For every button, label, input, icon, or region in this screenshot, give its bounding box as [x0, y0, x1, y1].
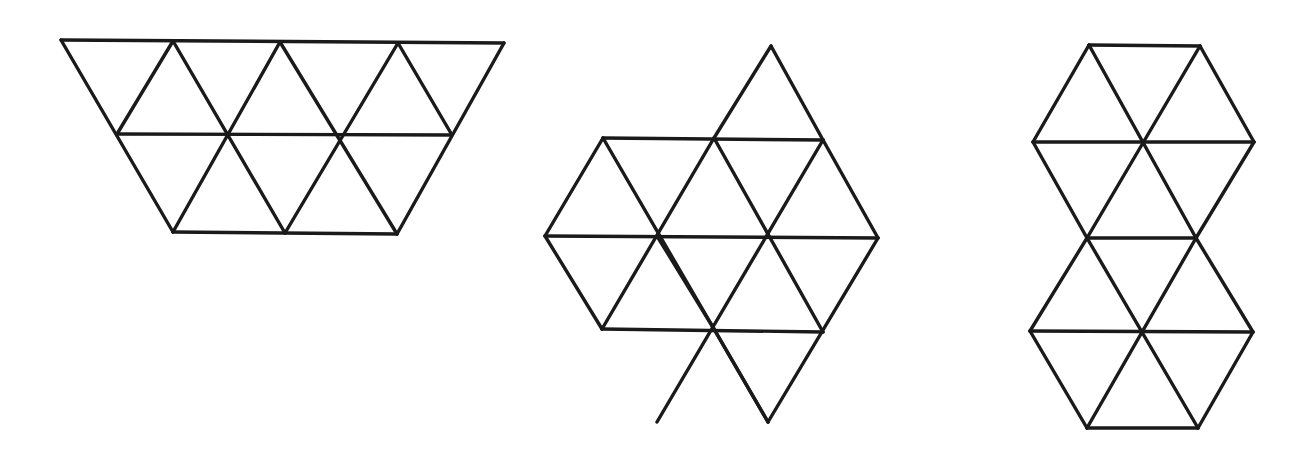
triangle-edge [1089, 45, 1200, 46]
triangle-edge [117, 134, 452, 135]
diagram-canvas [0, 0, 1314, 452]
triangle-edge [714, 46, 771, 138]
triangle-edge [1200, 46, 1254, 142]
triangle-edge [1030, 238, 1087, 331]
triangle-edge [1030, 331, 1087, 428]
triangle-edge [823, 140, 878, 238]
stacked-hexagons-figure [1030, 45, 1254, 428]
triangle-edge [545, 138, 603, 236]
triangle-grid-drawing [0, 0, 1314, 452]
triangle-edge [61, 40, 504, 43]
trapezoid-figure [61, 40, 504, 234]
triangle-edge [1033, 45, 1089, 142]
triangle-edge [398, 43, 452, 135]
triangle-edge [1033, 142, 1087, 238]
triangle-edge [280, 42, 397, 234]
triangle-edge [285, 43, 398, 233]
triangle-edge [771, 46, 823, 140]
triangle-edge [1196, 238, 1253, 332]
triangle-edge [714, 329, 768, 422]
triangle-edge [1196, 142, 1254, 238]
triangle-edge [1198, 332, 1253, 428]
triangle-edge [657, 236, 714, 329]
triangle-edge [545, 236, 602, 329]
triangle-edge [545, 236, 878, 238]
triangle-edge [117, 41, 173, 134]
hexagon-with-diamonds-figure [545, 46, 878, 422]
